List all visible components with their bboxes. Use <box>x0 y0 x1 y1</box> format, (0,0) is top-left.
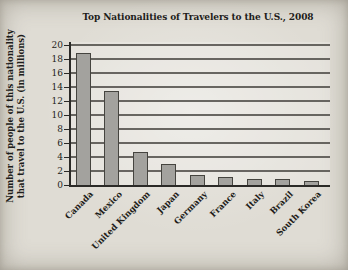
y-tick-label: 0 <box>43 181 63 190</box>
y-axis-line <box>69 42 71 185</box>
bar-france <box>218 177 233 185</box>
y-tick-label: 20 <box>43 41 63 50</box>
chart-title: Top Nationalities of Travelers to the U.… <box>52 12 344 22</box>
gridline <box>69 86 330 88</box>
y-axis-label: Number of people of this nationality tha… <box>5 25 27 207</box>
bar-canada <box>76 53 91 185</box>
y-axis-label-line1: Number of people of this nationality <box>5 25 16 207</box>
y-tick-label: 14 <box>43 83 63 92</box>
bar-japan <box>161 164 176 185</box>
y-tick-label: 10 <box>43 111 63 120</box>
bar-mexico <box>104 91 119 185</box>
bar-germany <box>190 175 205 186</box>
scanned-chart-page: Top Nationalities of Travelers to the U.… <box>0 0 348 270</box>
bar-united-kingdom <box>133 152 148 185</box>
gridline <box>69 72 330 74</box>
y-tick-label: 2 <box>43 167 63 176</box>
y-tick-label: 18 <box>43 55 63 64</box>
gridline <box>69 44 330 46</box>
y-tick-label: 8 <box>43 125 63 134</box>
y-axis-label-line2: that travel to the U.S. (in millions) <box>16 25 27 207</box>
gridline <box>69 58 330 60</box>
x-axis-line <box>69 185 330 187</box>
y-tick-label: 16 <box>43 69 63 78</box>
y-tick-label: 6 <box>43 139 63 148</box>
y-tick-label: 4 <box>43 153 63 162</box>
y-tick-label: 12 <box>43 97 63 106</box>
